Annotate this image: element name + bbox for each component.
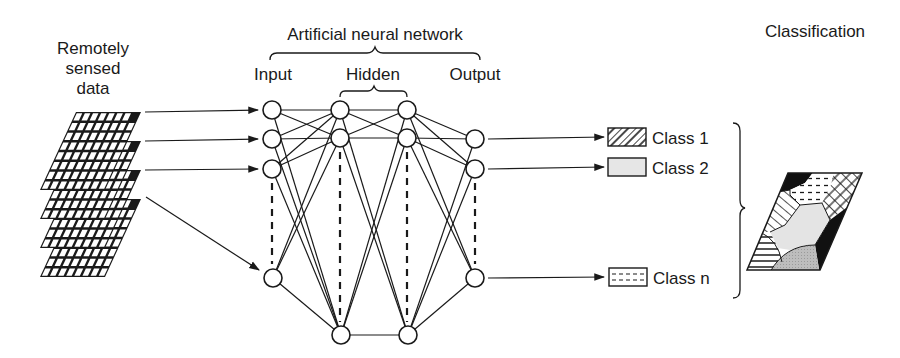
svg-text:Remotely: Remotely bbox=[57, 39, 129, 58]
input-node bbox=[263, 130, 281, 148]
network-brace bbox=[270, 47, 480, 60]
output-node bbox=[466, 160, 484, 178]
input-arrows bbox=[145, 110, 259, 270]
class-2-swatch bbox=[608, 158, 646, 176]
output-arrows bbox=[488, 137, 604, 278]
output-node bbox=[466, 130, 484, 148]
output-node bbox=[466, 269, 484, 287]
class-1-item: Class 1 bbox=[608, 128, 709, 148]
class-2-label: Class 2 bbox=[652, 159, 709, 178]
classification-title: Classification bbox=[765, 22, 865, 41]
network-connections bbox=[272, 110, 475, 335]
hidden2-node bbox=[398, 101, 416, 119]
input-data-label: Remotely sensed data bbox=[57, 39, 129, 98]
svg-text:data: data bbox=[76, 79, 110, 98]
neural-network-classification-diagram: Remotely sensed data Artificial neural n… bbox=[0, 0, 900, 358]
class-1-swatch bbox=[608, 128, 646, 146]
hidden1-node bbox=[331, 101, 349, 119]
class-n-label: Class n bbox=[653, 269, 710, 288]
hidden1-node bbox=[331, 129, 349, 147]
hidden2-node bbox=[398, 129, 416, 147]
svg-text:sensed: sensed bbox=[66, 59, 121, 78]
hidden1-node bbox=[332, 326, 350, 344]
output-layer-label: Output bbox=[449, 65, 500, 84]
class-n-item: Class n bbox=[609, 268, 710, 288]
class-2-item: Class 2 bbox=[608, 158, 709, 178]
hidden-layer-label: Hidden bbox=[346, 65, 400, 84]
hidden-brace bbox=[340, 86, 407, 97]
remotely-sensed-data-layers bbox=[40, 112, 141, 277]
class-1-label: Class 1 bbox=[652, 129, 709, 148]
hidden2-node bbox=[399, 326, 417, 344]
input-node bbox=[263, 101, 281, 119]
classes-brace bbox=[733, 123, 745, 298]
input-node bbox=[264, 269, 282, 287]
input-layer-label: Input bbox=[254, 65, 292, 84]
input-node bbox=[263, 160, 281, 178]
class-legend: Class 1 Class 2 Class n bbox=[608, 128, 710, 288]
network-title: Artificial neural network bbox=[287, 25, 463, 44]
classification-map bbox=[740, 170, 870, 275]
class-n-swatch bbox=[609, 268, 647, 286]
